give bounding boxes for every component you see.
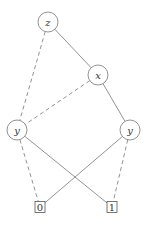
node-t1: 1 [107, 202, 117, 213]
node-yl: y [7, 120, 27, 140]
node-x: x [88, 65, 108, 85]
node-yr: y [120, 120, 140, 140]
node-label: 0 [37, 202, 43, 213]
node-z: z [38, 12, 58, 32]
edge-yl-to-t1-solid [25, 136, 107, 203]
edge-z-to-x-solid [55, 29, 91, 67]
edge-x-to-yr-solid [103, 84, 125, 122]
edge-x-to-yl-dashed [25, 81, 89, 125]
node-label: 1 [109, 202, 115, 213]
edges-layer [20, 29, 128, 203]
node-label: y [13, 125, 20, 136]
node-label: y [126, 125, 133, 136]
node-label: x [95, 70, 101, 81]
node-label: z [44, 17, 51, 28]
edge-yr-to-t0-solid [45, 137, 122, 203]
bdd-diagram: zxyy01 [0, 0, 150, 225]
edge-yr-to-t1-dashed [113, 140, 127, 202]
edge-yl-to-t0-dashed [20, 140, 38, 202]
edge-z-to-yl-dashed [20, 32, 45, 121]
node-t0: 0 [35, 202, 45, 213]
